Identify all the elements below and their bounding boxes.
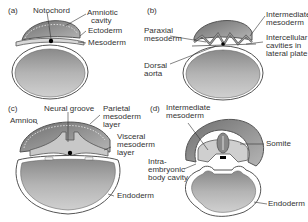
panel-d-tag: (d) (150, 104, 160, 113)
panel-a-drawing (12, 12, 88, 99)
panel-a-tag: (a) (8, 6, 18, 15)
embryo-development-diagram: (a) Notochord Amniotic cavity Ectoderm M… (0, 0, 308, 222)
label-notochord: Notochord (33, 7, 70, 16)
label-endoderm-c: Endoderm (117, 192, 154, 201)
panel-d-drawing (184, 119, 267, 216)
label-parietal-mesoderm-3: layer (103, 121, 120, 130)
label-intermediate-mesoderm-d-2: mesoderm (166, 112, 204, 121)
label-mesoderm: Mesoderm (88, 39, 126, 48)
label-paraxial-mesoderm-2: mesoderm (144, 35, 182, 44)
label-intra-embryonic-3: body cavity (148, 174, 188, 183)
label-amnion: Amnion (10, 117, 37, 126)
label-dorsal-aorta-2: aorta (144, 70, 162, 79)
label-ectoderm: Ectoderm (88, 27, 122, 36)
label-endoderm-d: Endoderm (268, 200, 305, 209)
label-amniotic-cavity-2: cavity (91, 17, 111, 26)
label-somite: Somite (266, 140, 291, 149)
panel-b-drawing (170, 16, 265, 100)
label-visceral-mesoderm-3: layer (117, 149, 134, 158)
label-intermediate-mesoderm-2: mesoderm (266, 19, 304, 28)
label-neural-groove: Neural groove (44, 105, 94, 114)
panel-c-tag: (c) (8, 104, 17, 113)
label-intercellular-cavities-3: lateral plate (266, 50, 307, 59)
panel-b-tag: (b) (147, 6, 157, 15)
